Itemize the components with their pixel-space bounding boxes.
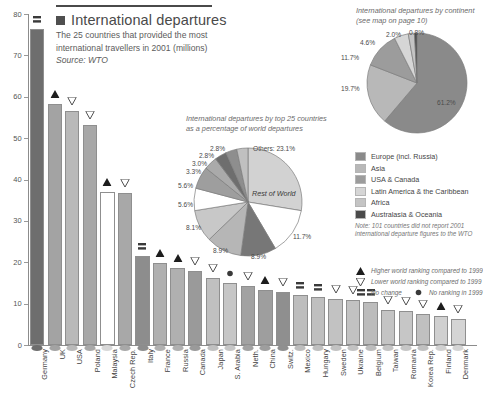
category-label: Canada <box>198 349 207 375</box>
category-label: Taiwan <box>391 349 400 372</box>
triangle-down-icon <box>243 272 252 280</box>
category-label: Germany <box>40 349 49 380</box>
pie-slice-label: 3.0% <box>192 160 207 167</box>
pie-slice-label: 2.0% <box>386 31 401 38</box>
y-axis-tick <box>24 180 28 181</box>
header-swatch-icon <box>56 16 65 25</box>
legend-item: Australasia & Oceania <box>355 210 475 219</box>
legend-swatch-icon <box>355 187 366 196</box>
triangle-down-icon <box>355 278 366 286</box>
y-axis-tick <box>24 304 28 305</box>
category-label: Ukraine <box>356 349 365 375</box>
bar <box>293 295 307 345</box>
pie-slice-label: 4.6% <box>360 39 375 46</box>
circle-icon <box>227 270 234 277</box>
legend-swatch-icon <box>355 210 366 219</box>
category-label: Belgium <box>374 349 383 376</box>
y-axis-tick-label: 50 <box>0 134 22 143</box>
bar <box>83 125 97 345</box>
triangle-up-icon <box>436 302 445 310</box>
square-icon <box>355 289 366 296</box>
legend-item-label: Australasia & Oceania <box>371 210 442 219</box>
triangle-down-icon <box>454 305 463 313</box>
ranking-marker <box>33 9 41 27</box>
square-icon <box>314 284 322 291</box>
pie-slice-label: 2.8% <box>199 152 214 159</box>
legend-swatch-icon <box>355 198 366 207</box>
triangle-down-icon <box>331 285 340 293</box>
triangle-up-icon <box>173 254 182 262</box>
marker-legend-item: No changeNo ranking in 1999 <box>355 288 477 297</box>
pie-slice-label: 5.6% <box>178 182 193 189</box>
legend-item: USA & Canada <box>355 175 475 184</box>
y-axis-tick <box>24 221 28 222</box>
header-subtitle-line2: international travellers in 2001 (millio… <box>56 43 266 54</box>
pie-slice <box>248 148 302 211</box>
legend-swatch-icon <box>355 175 366 184</box>
category-label: Sweden <box>339 349 348 376</box>
legend-note-line2: international departure figures to the W… <box>355 230 473 238</box>
page-title: International departures <box>71 12 227 28</box>
chart-header: International departures The 25 countrie… <box>56 6 266 65</box>
bar <box>399 311 413 345</box>
triangle-down-icon <box>85 111 94 119</box>
pie-slice-label: 8.1% <box>186 224 201 231</box>
legend-item-label: Europe (incl. Russia) <box>371 152 438 161</box>
pie-slice-label: 8.9% <box>213 247 228 254</box>
marker-legend-item: Lower world ranking compared to 1999 <box>355 277 477 286</box>
ranking-marker-legend: Higher world ranking compared to 1999Low… <box>355 266 477 299</box>
legend-item-label: USA & Canada <box>371 175 419 184</box>
square-icon <box>138 243 146 250</box>
bar <box>328 299 342 345</box>
bar-column <box>311 14 325 345</box>
marker-legend-label: Lower world ranking compared to 1999 <box>371 278 481 285</box>
square-icon <box>296 282 304 289</box>
circle-icon <box>413 289 424 296</box>
continent-legend: Europe (incl. Russia)AsiaUSA & CanadaLat… <box>355 152 475 238</box>
y-axis-tick <box>24 55 28 56</box>
legend-item-label: Latin America & the Caribbean <box>371 187 469 196</box>
bar <box>153 263 167 345</box>
ranking-marker <box>50 84 59 102</box>
y-axis-tick-label: 70 <box>0 51 22 60</box>
legend-item: Africa <box>355 198 475 207</box>
category-label: Japan <box>216 349 225 369</box>
bar-column <box>30 14 44 345</box>
y-axis-tick-label: 20 <box>0 258 22 267</box>
pie-slice-label: 61.2% <box>437 99 456 106</box>
category-label: Romania <box>409 349 418 379</box>
top25-pie-title-line1: International departures by top 25 count… <box>186 114 327 124</box>
bar <box>65 111 79 345</box>
pie-slice-label: 0.8% <box>409 29 424 36</box>
bar <box>206 278 220 345</box>
ranking-marker <box>85 105 94 123</box>
category-label: France <box>163 349 172 372</box>
square-icon <box>357 289 365 296</box>
category-label: Korea Rep. <box>426 349 435 387</box>
legend-item: Asia <box>355 164 475 173</box>
ranking-marker <box>173 248 182 266</box>
ranking-marker <box>261 270 270 288</box>
marker-legend-label: No ranking in 1999 <box>429 289 483 296</box>
category-label: Switz. <box>286 349 295 369</box>
circle-icon <box>415 289 422 296</box>
bar <box>346 300 360 346</box>
bar <box>170 268 184 345</box>
y-axis-tick-label: 60 <box>0 92 22 101</box>
bar <box>188 271 202 345</box>
bar <box>118 193 132 345</box>
ranking-marker <box>227 263 234 281</box>
y-axis-tick-label: 10 <box>0 299 22 308</box>
triangle-up-icon <box>261 276 270 284</box>
y-axis-tick <box>24 97 28 98</box>
bar <box>363 302 377 345</box>
pie-slice-label: 19.7% <box>341 85 360 92</box>
bar <box>311 297 325 345</box>
category-label: China <box>268 349 277 369</box>
y-axis-tick-label: 80 <box>0 10 22 19</box>
ranking-marker <box>296 275 304 293</box>
bar <box>135 256 149 345</box>
bar <box>451 319 465 345</box>
bar <box>258 290 272 345</box>
